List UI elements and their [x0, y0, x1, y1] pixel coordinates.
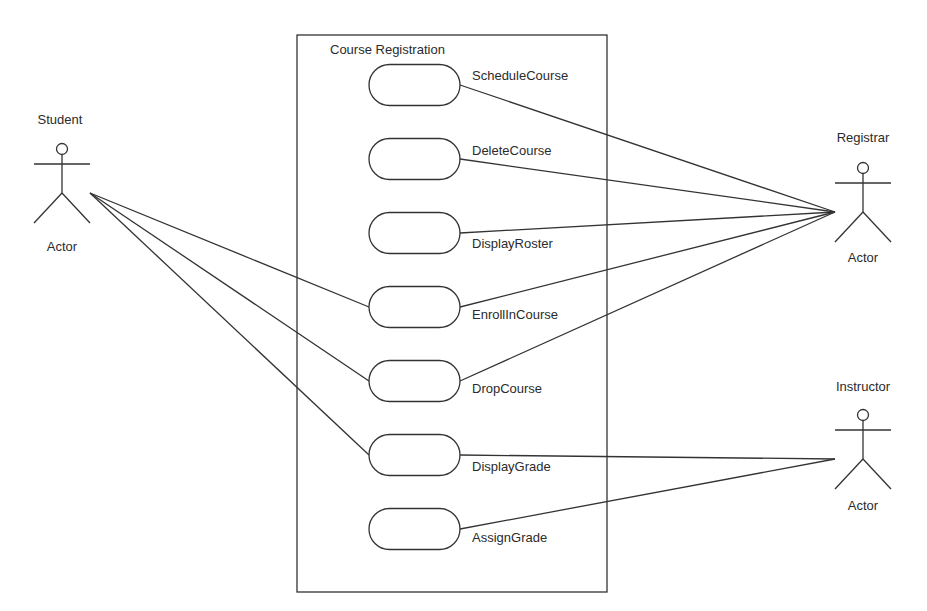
- association-registrar-roster: [460, 212, 835, 233]
- association-registrar-enroll: [460, 212, 835, 307]
- actor-left-leg-instructor: [835, 459, 863, 489]
- actor-name-student: Student: [38, 112, 83, 127]
- use-case-label-drop-course: DropCourse: [472, 381, 542, 396]
- use-case-oval-assigngrade: [369, 509, 460, 550]
- system-title: Course Registration: [330, 42, 445, 57]
- association-student-displaygrade: [90, 193, 369, 455]
- use-case-oval-delete: [369, 139, 460, 180]
- diagram-canvas: [0, 0, 927, 611]
- actor-stereotype-instructor: Actor: [848, 498, 878, 513]
- association-student-drop: [90, 193, 369, 381]
- association-registrar-delete: [460, 159, 835, 212]
- use-case-label-schedule-course: ScheduleCourse: [472, 68, 568, 83]
- use-case-label-delete-course: DeleteCourse: [472, 143, 552, 158]
- actor-name-registrar: Registrar: [837, 130, 890, 145]
- actor-right-leg-student: [62, 193, 90, 223]
- use-case-oval-enroll: [369, 287, 460, 328]
- actor-head-instructor: [858, 410, 869, 421]
- actor-stereotype-registrar: Actor: [848, 250, 878, 265]
- use-case-diagram: Course Registration ScheduleCourse Delet…: [0, 0, 927, 611]
- use-case-oval-schedule: [369, 65, 460, 106]
- use-case-oval-displaygrade: [369, 435, 460, 476]
- use-case-label-display-grade: DisplayGrade: [472, 459, 551, 474]
- actor-left-leg-student: [34, 193, 62, 223]
- actor-left-leg-registrar: [835, 212, 863, 242]
- actor-head-student: [57, 144, 68, 155]
- actor-stereotype-student: Actor: [47, 239, 77, 254]
- use-case-oval-roster: [369, 213, 460, 254]
- actor-right-leg-instructor: [863, 459, 891, 489]
- actor-name-instructor: Instructor: [836, 379, 890, 394]
- use-case-oval-drop: [369, 361, 460, 402]
- use-case-label-display-roster: DisplayRoster: [472, 236, 553, 251]
- use-case-label-enroll-in-course: EnrollInCourse: [472, 307, 558, 322]
- association-student-enroll: [90, 193, 369, 307]
- actor-head-registrar: [858, 163, 869, 174]
- use-case-label-assign-grade: AssignGrade: [472, 530, 547, 545]
- actor-right-leg-registrar: [863, 212, 891, 242]
